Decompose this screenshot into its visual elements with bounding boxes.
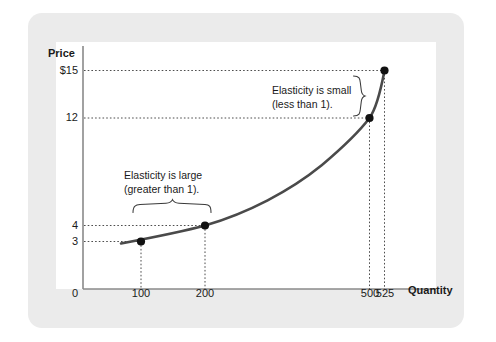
annotation-inelastic-line1: Elasticity is small — [272, 83, 351, 97]
y-tick-label-3: 3 — [42, 235, 78, 249]
x-tick-label-100: 100 — [121, 287, 161, 301]
y-tick-label-12: 12 — [42, 111, 78, 125]
x-tick-label-525: 525 — [365, 287, 405, 301]
y-tick-label-15: $15 — [42, 64, 78, 78]
screenshot-root: Price Quantity $15 12 4 3 0 100 200 500 … — [0, 0, 496, 342]
data-point-500-12 — [365, 114, 373, 122]
data-point-525-15 — [380, 66, 388, 74]
data-point-100-3 — [137, 237, 145, 245]
x-axis-title: Quantity — [408, 284, 453, 298]
x-tick-label-200: 200 — [185, 287, 225, 301]
y-tick-label-0: 0 — [42, 287, 78, 301]
annotation-elastic-line2: (greater than 1). — [124, 182, 199, 196]
y-axis-title: Price — [48, 47, 75, 61]
data-point-200-4 — [201, 221, 209, 229]
y-tick-label-4: 4 — [42, 219, 78, 233]
brace-horizontal-elastic — [133, 200, 211, 213]
annotation-elastic-line1: Elasticity is large — [124, 168, 202, 182]
brace-vertical-inelastic — [354, 76, 366, 116]
annotation-inelastic-line2: (less than 1). — [272, 97, 333, 111]
